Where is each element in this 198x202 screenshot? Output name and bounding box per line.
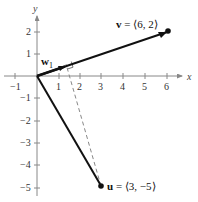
x-tick-label: 3	[98, 81, 103, 92]
y-tick-label: −2	[20, 115, 31, 126]
projection-diagram: −1 1 2 3 4 5 6 x 2 1 −1 −2 −3 −4 −5 y	[0, 0, 198, 202]
y-axis-label: y	[32, 3, 38, 14]
x-tick-label: 6	[164, 81, 169, 92]
vector-v-label: v = ⟨6, 2⟩	[116, 18, 158, 30]
x-tick-label: 5	[142, 81, 147, 92]
y-axis: 2 1 −1 −2 −3 −4 −5 y	[20, 3, 40, 196]
vector-w1-label: w1	[41, 55, 53, 70]
vector-v-endpoint	[165, 28, 171, 34]
x-tick-label: −1	[10, 81, 21, 92]
y-tick-label: −5	[20, 182, 31, 193]
x-tick-label: 4	[120, 81, 125, 92]
vector-u-endpoint	[98, 183, 104, 189]
x-tick-label: 2	[77, 81, 82, 92]
vector-u-label: u = ⟨3, −5⟩	[107, 180, 156, 192]
y-tick-label: −3	[20, 137, 31, 148]
x-axis-label: x	[186, 71, 192, 82]
y-tick-label: −1	[20, 92, 31, 103]
y-tick-label: 2	[26, 26, 31, 37]
x-axis: −1 1 2 3 4 5 6 x	[4, 71, 192, 92]
x-tick-label: 1	[56, 81, 61, 92]
y-tick-label: 1	[26, 48, 31, 59]
perpendicular-dashed-line	[66, 64, 101, 186]
y-tick-label: −4	[20, 159, 31, 170]
vector-w1-arrowhead	[58, 66, 66, 71]
vector-u	[37, 76, 100, 184]
